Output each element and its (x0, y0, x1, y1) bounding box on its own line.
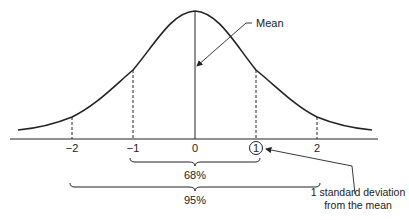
mean-label: Mean (256, 17, 284, 29)
tick-label-minus1: −1 (127, 142, 140, 154)
tick-label-1: 1 (253, 142, 259, 154)
bracket-68 (130, 158, 260, 166)
normal-curve-diagram: −2 −1 0 1 2 68% 95% Mean 1 standard devi… (0, 0, 409, 220)
sd-annotation-line2: from the mean (324, 199, 392, 211)
bracket-95 (70, 183, 320, 191)
label-68-percent: 68% (184, 169, 206, 181)
tick-label-0: 0 (192, 142, 198, 154)
label-95-percent: 95% (184, 194, 206, 206)
sd-annotation-line1: 1 standard deviation (311, 186, 406, 198)
tick-label-2: 2 (314, 142, 320, 154)
tick-label-minus2: −2 (66, 142, 79, 154)
